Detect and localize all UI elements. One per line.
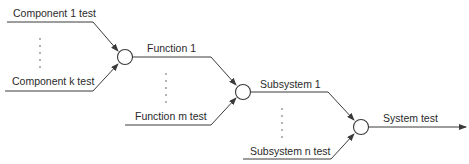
component-stage: Component 1 test Component k test [5, 7, 133, 91]
function-stage: Function 1 Function m test [125, 42, 251, 125]
label-function-m-test: Function m test [135, 110, 207, 122]
junction-node-icon [236, 85, 251, 100]
label-subsystem-1: Subsystem 1 [260, 78, 321, 90]
label-system-test: System test [383, 112, 438, 124]
vertical-ellipsis-icon [39, 38, 41, 68]
test-integration-diagram: Component 1 test Component k test Functi… [0, 0, 469, 164]
component-1-edge [7, 22, 118, 51]
vertical-ellipsis-icon [281, 108, 283, 138]
vertical-ellipsis-icon [165, 73, 167, 103]
junction-node-icon [354, 120, 369, 135]
subsystem-1-edge [251, 92, 355, 120]
label-subsystem-n-test: Subsystem n test [250, 145, 331, 157]
function-1-edge [133, 57, 237, 85]
subsystem-stage: Subsystem 1 Subsystem n test System test [243, 78, 466, 159]
label-function-1: Function 1 [147, 42, 196, 54]
label-component-k-test: Component k test [12, 75, 94, 87]
label-component-1-test: Component 1 test [13, 7, 96, 19]
junction-node-icon [118, 50, 133, 65]
